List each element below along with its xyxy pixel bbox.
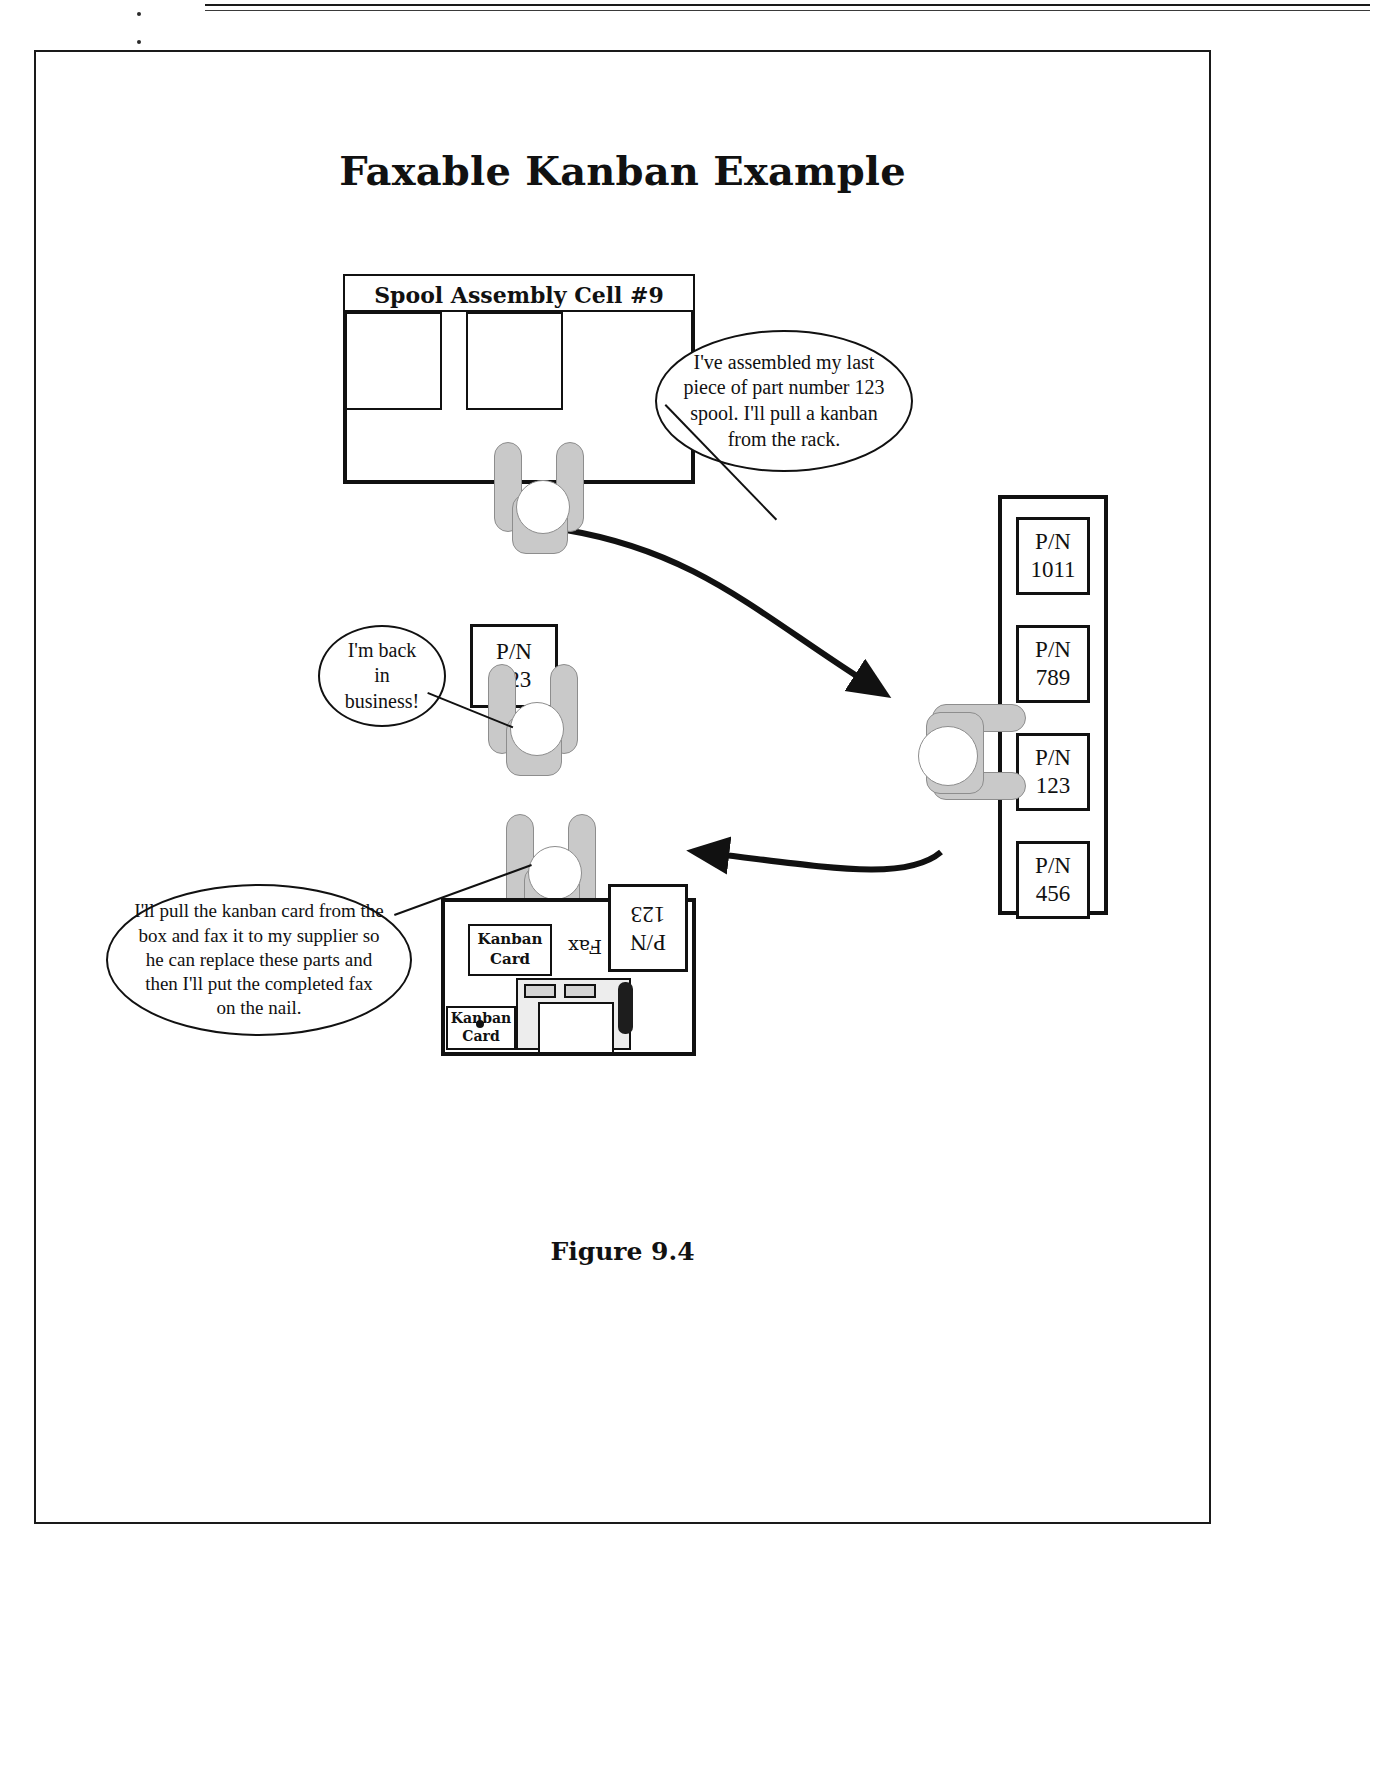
rack-slot-prefix: P/N bbox=[1035, 852, 1071, 880]
spool-assembly-cell-label: Spool Assembly Cell #9 bbox=[343, 282, 695, 308]
kanban-card-box-line1: Kanban bbox=[478, 930, 543, 948]
fax-label: Fax bbox=[550, 936, 620, 958]
rack-slot-number: 789 bbox=[1036, 664, 1071, 692]
outgoing-card-prefix: P/N bbox=[630, 928, 666, 956]
nail-icon bbox=[476, 1020, 484, 1028]
arrow-operator-to-rack bbox=[566, 530, 866, 682]
operator-figure-cell bbox=[494, 442, 590, 554]
rack-slot-1011[interactable]: P/N 1011 bbox=[1016, 517, 1090, 595]
arrow-rack-to-fax bbox=[716, 852, 941, 869]
page-top-rule-secondary bbox=[205, 10, 1370, 11]
margin-dot bbox=[137, 12, 141, 16]
rack-slot-prefix: P/N bbox=[1035, 744, 1071, 772]
carried-card-prefix: P/N bbox=[496, 638, 532, 666]
fax-machine-display bbox=[564, 984, 596, 998]
rack-slot-123-being-pulled[interactable]: P/N 123 bbox=[1016, 733, 1090, 811]
rack-slot-number: 123 bbox=[1036, 772, 1071, 800]
fax-machine-paper-tray bbox=[538, 1002, 614, 1054]
rack-slot-prefix: P/N bbox=[1035, 636, 1071, 664]
cell-workstation-left bbox=[345, 312, 442, 410]
kanban-card-box-line2: Card bbox=[490, 950, 530, 968]
outgoing-fax-sheet[interactable]: P/N 123 bbox=[608, 884, 688, 972]
rack-slot-789[interactable]: P/N 789 bbox=[1016, 625, 1090, 703]
rack-slot-prefix: P/N bbox=[1035, 528, 1071, 556]
rack-slot-456[interactable]: P/N 456 bbox=[1016, 841, 1090, 919]
operator-figure-middle bbox=[488, 664, 584, 776]
kanban-card-box-label: Kanban Card bbox=[468, 930, 552, 969]
cell-workstation-right bbox=[466, 312, 563, 410]
page-top-rule bbox=[205, 4, 1370, 6]
rack-slot-number: 456 bbox=[1036, 880, 1071, 908]
fax-handset[interactable] bbox=[618, 982, 633, 1034]
outgoing-card-number: 123 bbox=[631, 900, 666, 928]
nail-card-line2: Card bbox=[462, 1028, 499, 1044]
margin-dot bbox=[137, 40, 141, 44]
operator-figure-rack bbox=[904, 704, 1022, 804]
rack-slot-number: 1011 bbox=[1030, 556, 1075, 584]
page-border-frame: Faxable Kanban Example Figure 9.4 Spool … bbox=[34, 50, 1211, 1524]
fax-supplier-bubble: I'll pull the kanban card from the box a… bbox=[106, 884, 412, 1036]
operator-bubble: I've assembled my last piece of part num… bbox=[655, 330, 913, 472]
fax-machine-keypad bbox=[524, 984, 556, 998]
back-in-business-bubble: I'm back in business! bbox=[318, 625, 446, 727]
